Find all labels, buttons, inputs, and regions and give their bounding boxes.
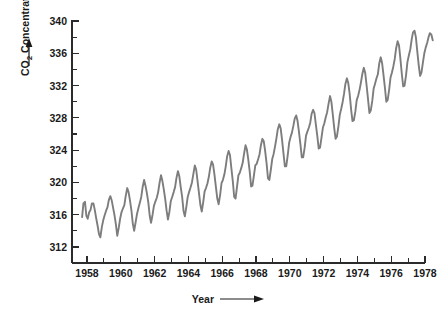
- y-tick-label: 324: [49, 144, 67, 156]
- x-tick-label: 1964: [177, 267, 201, 279]
- x-axis-title: Year: [192, 293, 214, 305]
- chart-figure: 312316320324328332336340 195819601962196…: [0, 0, 445, 322]
- x-axis-tick-labels: 1958196019621964196619681970197219741976…: [75, 267, 437, 279]
- x-tick-label: 1970: [278, 267, 302, 279]
- keeling-curve-chart: 312316320324328332336340 195819601962196…: [0, 0, 445, 322]
- y-tick-label: 340: [49, 15, 67, 27]
- y-tick-label: 312: [49, 241, 67, 253]
- y-tick-label: 320: [49, 176, 67, 188]
- y-tick-label: 336: [49, 47, 67, 59]
- x-tick-label: 1968: [244, 267, 268, 279]
- x-tick-label: 1974: [346, 267, 370, 279]
- y-tick-label: 328: [49, 112, 67, 124]
- y-tick-label: 332: [49, 80, 67, 92]
- x-tick-label: 1966: [211, 267, 235, 279]
- x-tick-label: 1976: [380, 267, 404, 279]
- x-tick-label: 1978: [413, 267, 437, 279]
- x-tick-label: 1960: [109, 267, 133, 279]
- x-tick-label: 1962: [143, 267, 167, 279]
- x-tick-label: 1972: [312, 267, 336, 279]
- x-tick-label: 1958: [75, 267, 99, 279]
- y-tick-label: 316: [49, 209, 67, 221]
